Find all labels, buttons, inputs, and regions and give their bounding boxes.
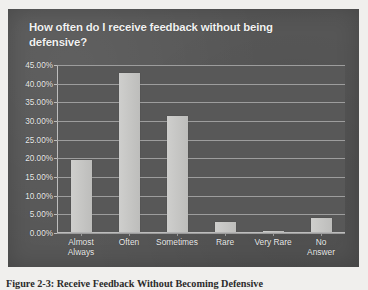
gridline bbox=[57, 65, 345, 66]
x-tick-label: Very Rare bbox=[254, 237, 291, 247]
x-tick-label: Sometimes bbox=[156, 237, 198, 247]
x-tick-mark bbox=[81, 233, 82, 236]
x-tick-mark bbox=[129, 233, 130, 236]
x-tick-mark bbox=[225, 233, 226, 236]
gridline bbox=[57, 102, 345, 103]
gridline bbox=[57, 140, 345, 141]
gridline bbox=[57, 158, 345, 159]
y-tick-mark bbox=[54, 102, 57, 103]
figure-caption: Figure 2-3: Receive Feedback Without Bec… bbox=[6, 278, 362, 290]
bar bbox=[263, 231, 284, 232]
y-axis-line bbox=[57, 65, 58, 233]
y-tick-label: 45.00% bbox=[25, 61, 53, 70]
y-tick-label: 5.00% bbox=[30, 210, 53, 219]
bar bbox=[311, 218, 332, 232]
y-tick-label: 40.00% bbox=[25, 79, 53, 88]
chart-panel: How often do I receive feedback without … bbox=[8, 9, 359, 267]
y-tick-mark bbox=[54, 177, 57, 178]
bar bbox=[215, 222, 236, 232]
x-tick-label: Rare bbox=[216, 237, 234, 247]
gridline bbox=[57, 233, 345, 234]
bar bbox=[71, 160, 92, 232]
scanned-page-background: How often do I receive feedback without … bbox=[0, 0, 368, 290]
y-tick-label: 10.00% bbox=[25, 191, 53, 200]
y-tick-label: 15.00% bbox=[25, 173, 53, 182]
x-tick-mark bbox=[321, 233, 322, 236]
x-tick-mark bbox=[177, 233, 178, 236]
bar bbox=[119, 73, 140, 232]
y-tick-mark bbox=[54, 140, 57, 141]
y-tick-mark bbox=[54, 214, 57, 215]
y-tick-label: 25.00% bbox=[25, 135, 53, 144]
plot-background bbox=[57, 65, 345, 233]
gridline bbox=[57, 177, 345, 178]
y-tick-mark bbox=[54, 121, 57, 122]
y-tick-mark bbox=[54, 158, 57, 159]
y-tick-mark bbox=[54, 196, 57, 197]
gridline bbox=[57, 214, 345, 215]
gridline bbox=[57, 196, 345, 197]
bar bbox=[167, 116, 188, 232]
x-tick-label: Often bbox=[119, 237, 139, 247]
x-tick-mark bbox=[273, 233, 274, 236]
y-tick-label: 20.00% bbox=[25, 154, 53, 163]
y-tick-mark bbox=[54, 84, 57, 85]
y-tick-label: 35.00% bbox=[25, 98, 53, 107]
y-tick-label: 30.00% bbox=[25, 117, 53, 126]
y-tick-mark bbox=[54, 65, 57, 66]
chart-title: How often do I receive feedback without … bbox=[29, 20, 329, 49]
x-tick-label: No Answer bbox=[307, 237, 335, 257]
y-tick-mark bbox=[54, 233, 57, 234]
x-tick-label: Almost Always bbox=[68, 237, 95, 257]
gridline bbox=[57, 84, 345, 85]
plot-area: 45.00%40.00%35.00%30.00%25.00%20.00%15.0… bbox=[57, 65, 345, 233]
y-tick-label: 0.00% bbox=[30, 229, 53, 238]
gridline bbox=[57, 121, 345, 122]
